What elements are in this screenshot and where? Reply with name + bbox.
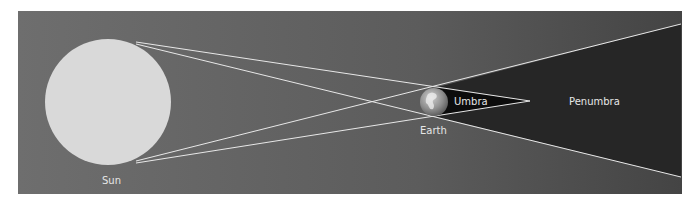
umbra-label: Umbra	[454, 96, 488, 107]
earth-label: Earth	[420, 125, 447, 136]
earth-globe	[420, 88, 448, 116]
penumbra-label: Penumbra	[569, 96, 620, 107]
sun-label: Sun	[102, 175, 121, 186]
eclipse-diagram: Sun Earth Umbra Penumbra	[0, 0, 697, 200]
sun	[45, 39, 171, 165]
earth	[420, 88, 448, 116]
